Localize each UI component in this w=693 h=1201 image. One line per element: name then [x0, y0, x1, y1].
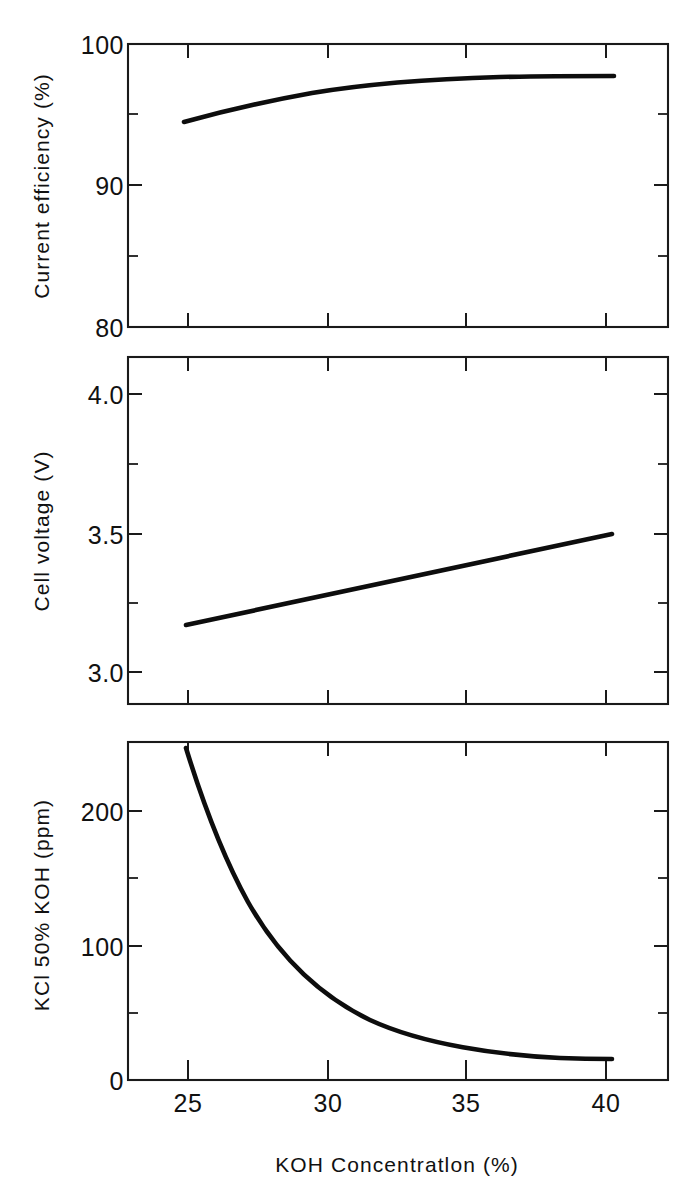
panel-kcl-in-koh: 200 100 0 KCl 50% KOH (ppm) [30, 742, 668, 1095]
y-tick-label-bottom-100: 100 [81, 933, 124, 961]
curve-current-efficiency [184, 76, 614, 122]
multi-panel-line-chart: 100 90 80 Current efficiency (%) [0, 0, 693, 1201]
panel-cell-voltage: 4.0 3.5 3.0 Cell voltage (V) [30, 357, 668, 704]
x-tick-label-30: 30 [314, 1089, 343, 1117]
x-axis-label-koh-concentration: KOH Concentratlon (%) [275, 1153, 519, 1176]
x-tick-label-25: 25 [174, 1089, 203, 1117]
x-tick-label-35: 35 [452, 1089, 481, 1117]
y-tick-label-middle-30: 3.0 [88, 659, 124, 687]
y-axis-label-cell-voltage: Cell voltage (V) [30, 450, 53, 611]
y-axis-label-kcl-koh: KCl 50% KOH (ppm) [30, 799, 53, 1011]
x-ticks-middle [188, 357, 606, 704]
y-tick-label-bottom-200: 200 [81, 798, 124, 826]
plot-frame-top [128, 44, 668, 327]
panel-current-efficiency: 100 90 80 Current efficiency (%) [30, 31, 668, 342]
curve-kcl-in-koh [186, 748, 612, 1059]
y-tick-label-top-100: 100 [81, 31, 124, 59]
plot-frame-middle [128, 357, 668, 704]
figure-container: 100 90 80 Current efficiency (%) [0, 0, 693, 1201]
y-tick-label-bottom-0: 0 [110, 1067, 124, 1095]
curve-cell-voltage [186, 534, 612, 625]
x-axis-tick-labels: 25 30 35 40 [174, 1089, 621, 1117]
x-tick-label-40: 40 [592, 1089, 621, 1117]
x-ticks-top [188, 44, 606, 327]
y-ticks-middle [128, 394, 668, 672]
y-ticks-bottom [128, 811, 668, 1013]
y-axis-label-current-efficiency: Current efficiency (%) [30, 73, 53, 299]
y-ticks-top [128, 114, 668, 256]
y-tick-label-top-90: 90 [95, 172, 124, 200]
y-tick-label-top-80: 80 [95, 314, 124, 342]
y-tick-label-middle-40: 4.0 [88, 381, 124, 409]
y-tick-label-middle-35: 3.5 [88, 521, 124, 549]
